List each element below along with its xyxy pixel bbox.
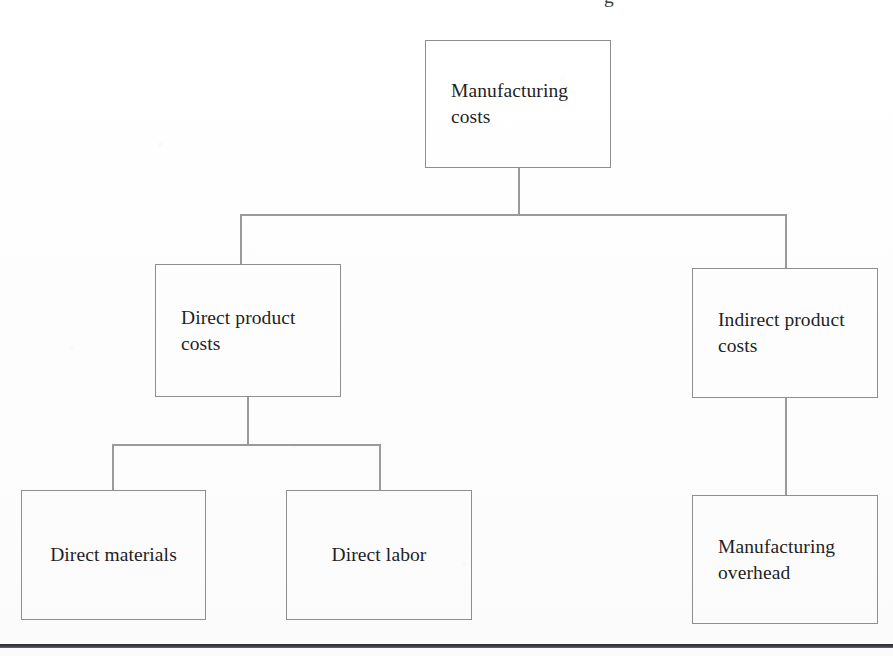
connector-level1-horizontal-bar [112, 444, 379, 446]
connector-level0-horizontal-bar [240, 214, 786, 216]
connector-root-stem [518, 168, 520, 215]
connector-to-manufacturing-overhead [785, 398, 787, 495]
node-direct-materials: Direct materials [21, 490, 206, 620]
connector-to-direct-product-costs [240, 214, 242, 264]
connector-to-direct-labor [379, 444, 381, 491]
node-manufacturing-costs: Manufacturing costs [425, 40, 611, 168]
connector-direct-product-stem [247, 397, 249, 444]
diagram-page: g Manufacturing costsDirect product cost… [0, 0, 893, 656]
node-manufacturing-overhead: Manufacturing overhead [692, 495, 878, 624]
bottom-divider-rule [0, 644, 893, 648]
clipped-header-glyph: g [604, 0, 614, 7]
node-indirect-product-costs: Indirect product costs [692, 268, 878, 398]
node-label-indirect-product-costs: Indirect product costs [693, 307, 877, 359]
node-label-direct-labor: Direct labor [287, 542, 471, 568]
node-direct-product-costs: Direct product costs [155, 264, 341, 397]
node-label-manufacturing-overhead: Manufacturing overhead [693, 534, 877, 586]
node-label-manufacturing-costs: Manufacturing costs [426, 78, 610, 130]
node-label-direct-materials: Direct materials [22, 542, 205, 568]
node-direct-labor: Direct labor [286, 490, 472, 620]
node-label-direct-product-costs: Direct product costs [156, 305, 340, 357]
connector-to-indirect-product-costs [785, 214, 787, 268]
connector-to-direct-materials [112, 444, 114, 491]
